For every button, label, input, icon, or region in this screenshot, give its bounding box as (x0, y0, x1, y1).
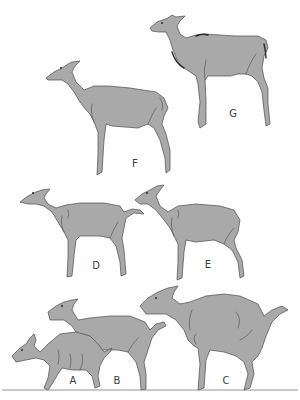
label-a: A (70, 375, 77, 386)
label-f: F (132, 158, 138, 169)
deer-g-illustration (150, 15, 270, 128)
deer-c-illustration (140, 286, 288, 390)
deer-posture-figure: G F D E A B C (0, 0, 300, 400)
deer-f-illustration (46, 61, 170, 175)
figure-drawing (0, 0, 300, 400)
label-d: D (92, 260, 100, 271)
label-g: G (229, 108, 237, 119)
deer-d-illustration (20, 189, 144, 277)
deer-e-illustration (135, 185, 244, 280)
label-b: B (114, 375, 121, 386)
label-c: C (223, 375, 230, 386)
label-e: E (205, 259, 211, 270)
